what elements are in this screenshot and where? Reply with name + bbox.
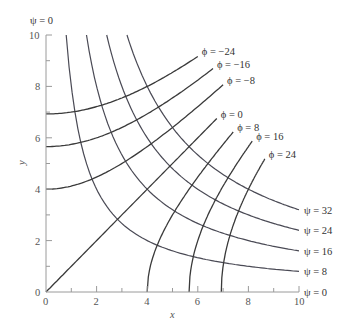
y-axis-label: y [16,160,27,166]
x-tick-label: 4 [144,296,150,307]
psi-label-8: ψ = 8 [304,266,327,277]
x-axis-label: x [169,309,175,320]
x-tick-label: 2 [94,296,99,307]
y-tick-label: 8 [35,81,40,92]
x-tick-label: 0 [43,296,48,307]
x-tick-label: 6 [195,296,200,307]
y-tick-label: 6 [35,133,40,144]
psi-zero-top-label: ψ = 0 [30,15,53,26]
y-tick-label: 10 [29,30,40,41]
psi-label-32: ψ = 32 [304,205,332,216]
y-tick-label: 2 [35,236,40,247]
phi-label-0: ϕ = 0 [221,109,243,120]
flow-net-diagram: 02468100246810 ψ = 0 x y ψ = 32ψ = 24ψ =… [0,0,348,327]
psi-label-0: ψ = 0 [304,287,327,298]
y-tick-label: 4 [35,184,41,195]
phi-label-24: ϕ = 24 [269,149,297,160]
curves-layer [46,35,299,292]
x-tick-label: 10 [294,296,305,307]
phi-label-neg8: ϕ = −8 [227,75,255,86]
phi-curve-16 [189,141,252,292]
phi-label-16: ϕ = 16 [256,131,283,142]
x-tick-label: 8 [245,296,250,307]
psi-label-24: ψ = 24 [304,225,333,236]
phi-label-neg16: ϕ = −16 [217,59,250,70]
phi-label-neg24: ϕ = −24 [202,46,236,57]
y-tick-label: 0 [35,287,40,298]
psi-label-16: ψ = 16 [304,246,332,257]
